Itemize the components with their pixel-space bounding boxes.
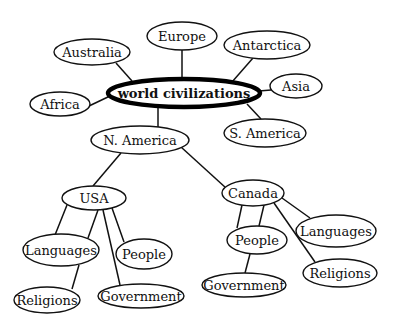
connector-usa-to-usa-people bbox=[112, 208, 124, 242]
node-usa: USA bbox=[62, 186, 126, 210]
connector-n-america-to-usa bbox=[93, 153, 121, 186]
connector-world-to-s-america bbox=[247, 104, 261, 119]
connector-n-america-to-canada bbox=[181, 147, 226, 188]
connector-canada-to-canada-people bbox=[237, 205, 242, 228]
node-canada-government: Government bbox=[202, 273, 286, 297]
connector-canada-to-canada-languages bbox=[282, 198, 310, 218]
node-canada-people: People bbox=[227, 226, 287, 254]
node-canada-people-label: People bbox=[235, 233, 279, 248]
node-asia-label: Asia bbox=[281, 79, 310, 94]
node-usa-government-label: Government bbox=[100, 289, 182, 304]
nodes-layer: AustraliaEuropeAntarcticaAsiaAfricaS. Am… bbox=[14, 22, 377, 313]
concept-map-diagram: AustraliaEuropeAntarcticaAsiaAfricaS. Am… bbox=[0, 0, 396, 330]
connector-usa-to-usa-languages bbox=[88, 210, 98, 238]
node-canada-religions-label: Religions bbox=[309, 266, 370, 281]
node-s-america: S. America bbox=[224, 119, 306, 147]
connector-canada-to-canada-people bbox=[259, 205, 264, 226]
node-antarctica: Antarctica bbox=[224, 31, 310, 59]
node-usa-government: Government bbox=[98, 284, 184, 308]
node-canada-religions: Religions bbox=[303, 259, 377, 287]
node-usa-religions-label: Religions bbox=[16, 293, 77, 308]
node-europe: Europe bbox=[147, 22, 217, 50]
node-n-america-label: N. America bbox=[103, 133, 177, 148]
connector-canada-people-to-canada-government bbox=[245, 254, 250, 273]
connector-world-to-africa bbox=[89, 96, 110, 106]
node-europe-label: Europe bbox=[158, 29, 206, 44]
node-asia: Asia bbox=[270, 74, 322, 98]
connector-usa-languages-to-usa-religions bbox=[72, 265, 79, 289]
node-africa: Africa bbox=[30, 92, 90, 116]
node-usa-people: People bbox=[116, 239, 172, 269]
node-usa-religions: Religions bbox=[14, 287, 80, 313]
node-antarctica-label: Antarctica bbox=[232, 38, 302, 53]
node-africa-label: Africa bbox=[39, 97, 80, 112]
node-canada-languages-label: Languages bbox=[300, 224, 372, 239]
node-usa-label: USA bbox=[79, 191, 109, 206]
node-australia-label: Australia bbox=[61, 45, 122, 60]
node-usa-languages: Languages bbox=[23, 234, 99, 266]
node-canada-label: Canada bbox=[228, 186, 278, 201]
node-usa-languages-label: Languages bbox=[25, 243, 97, 258]
node-canada: Canada bbox=[222, 180, 284, 206]
concept-map-canvas: AustraliaEuropeAntarcticaAsiaAfricaS. Am… bbox=[0, 0, 396, 330]
node-canada-government-label: Government bbox=[203, 278, 285, 293]
connector-world-to-australia bbox=[116, 63, 132, 81]
node-n-america: N. America bbox=[91, 126, 189, 154]
connector-world-to-antarctica bbox=[232, 58, 253, 82]
node-australia: Australia bbox=[54, 39, 130, 65]
node-usa-people-label: People bbox=[122, 247, 166, 262]
center-node-label: world civilizations bbox=[117, 86, 251, 101]
center-node: world civilizations bbox=[108, 79, 260, 107]
connector-usa-to-usa-languages bbox=[55, 205, 67, 235]
node-canada-languages: Languages bbox=[296, 215, 376, 247]
node-s-america-label: S. America bbox=[229, 126, 301, 141]
